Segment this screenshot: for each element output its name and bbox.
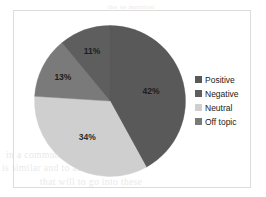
legend-item-neutral[interactable]: Neutral — [195, 101, 261, 114]
legend-swatch-icon — [195, 90, 202, 97]
pie-slice-group — [35, 26, 186, 177]
legend-item-negative[interactable]: Negative — [195, 87, 261, 100]
legend-item-label: Off topic — [205, 117, 237, 127]
pie-chart-svg: 42%34%13%11% — [34, 25, 186, 177]
legend-swatch-icon — [195, 118, 202, 125]
legend-item-positive[interactable]: Positive — [195, 73, 261, 86]
pie-slice-label-neutral: 34% — [79, 132, 96, 142]
pie-slice-label-off-topic: 13% — [54, 72, 71, 82]
legend-item-label: Neutral — [205, 103, 232, 113]
pie-slice-label-positive: 42% — [142, 86, 159, 96]
legend-item-label: Positive — [205, 75, 235, 85]
legend-item-label: Negative — [205, 89, 239, 99]
legend-swatch-icon — [195, 104, 202, 111]
pie-slice-label-negative: 11% — [84, 46, 101, 56]
chart-frame: 42%34%13%11% PositiveNegativeNeutralOff … — [13, 10, 251, 188]
chart-legend: PositiveNegativeNeutralOff topic — [195, 73, 261, 129]
legend-swatch-icon — [195, 76, 202, 83]
legend-item-off-topic[interactable]: Off topic — [195, 115, 261, 128]
pie-chart-plot-area: 42%34%13%11% — [34, 25, 186, 177]
